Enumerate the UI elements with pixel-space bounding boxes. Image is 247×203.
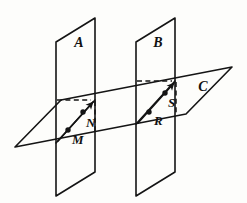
point-r-dot [146,109,151,114]
point-label-m: M [71,132,84,147]
point-label-r: R [153,113,163,128]
point-label-n: N [85,115,96,130]
plane-label-b: B [152,35,162,50]
geometry-diagram: A B C M N R S [0,0,247,203]
plane-label-a: A [73,35,83,50]
point-s-dot [162,90,167,95]
geometry-figure: A B C M N R S [0,0,247,203]
point-m-dot [65,127,70,132]
point-label-s: S [168,95,175,110]
plane-label-c: C [198,79,208,94]
point-n-dot [80,109,85,114]
